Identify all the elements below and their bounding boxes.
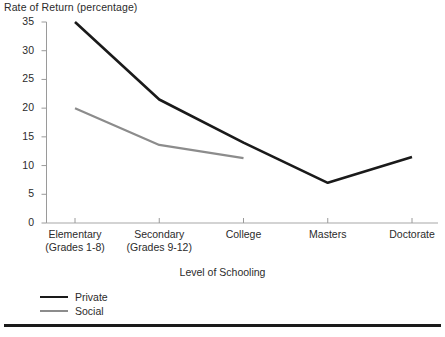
legend-label-private: Private	[75, 291, 108, 303]
y-tick-label: 30	[8, 44, 34, 56]
plot-area	[0, 0, 445, 337]
series-layer	[75, 22, 412, 183]
legend-item-social: Social	[40, 304, 108, 318]
y-tick-label: 25	[8, 72, 34, 84]
x-tick-label-line: Doctorate	[352, 228, 445, 241]
x-axis	[47, 218, 439, 223]
series-line-social	[75, 108, 244, 158]
y-tick-label: 35	[8, 15, 34, 27]
y-axis	[42, 22, 47, 223]
series-line-private	[75, 22, 412, 183]
y-tick-label: 20	[8, 101, 34, 113]
y-axis-ticks	[42, 22, 47, 223]
legend-label-social: Social	[75, 305, 104, 317]
y-tick-label: 0	[8, 216, 34, 228]
y-tick-label: 5	[8, 187, 34, 199]
bottom-divider	[4, 324, 441, 327]
x-axis-title: Level of Schooling	[0, 266, 445, 278]
legend-line-icon-private	[40, 296, 68, 298]
chart-container: Rate of Return (percentage) 051015202530…	[0, 0, 445, 337]
y-tick-label: 10	[8, 159, 34, 171]
y-tick-label: 15	[8, 130, 34, 142]
x-tick-label-line: (Grades 9-12)	[99, 241, 219, 254]
legend-line-icon-social	[40, 310, 68, 312]
chart-legend: Private Social	[40, 290, 108, 318]
x-tick-label: Doctorate	[352, 228, 445, 241]
x-axis-ticks	[75, 218, 412, 223]
legend-item-private: Private	[40, 290, 108, 304]
